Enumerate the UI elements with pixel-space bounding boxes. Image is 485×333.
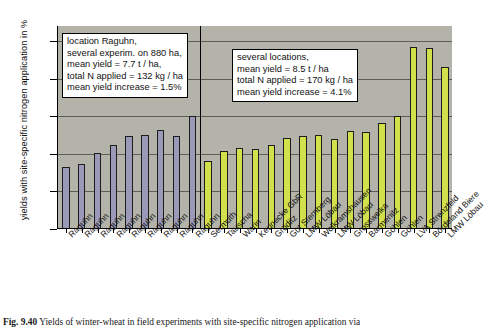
x-tick-13 xyxy=(271,229,272,233)
figure-caption: Fig. 9.40 Yields of winter-wheat in fiel… xyxy=(3,316,461,328)
note1-line-3: total N applied = 132 kg / ha xyxy=(67,71,183,83)
note1-line-0: location Raguhn, xyxy=(67,36,183,48)
x-tick-21 xyxy=(398,229,399,233)
y-tick-115 xyxy=(50,41,57,42)
x-tick-14 xyxy=(287,229,288,233)
x-tick-18 xyxy=(350,229,351,233)
note2-line-1: mean yield = 8.5 t / ha xyxy=(237,64,353,76)
bar-19 xyxy=(362,132,369,229)
bar-2 xyxy=(94,153,101,229)
x-tick-3 xyxy=(113,229,114,233)
x-tick-5 xyxy=(145,229,146,233)
bar-8 xyxy=(189,116,196,229)
bar-7 xyxy=(173,136,180,229)
y-tick-110 xyxy=(50,79,57,80)
note2-line-3: mean yield increase = 4.1% xyxy=(237,87,353,99)
x-tick-19 xyxy=(366,229,367,233)
x-tick-22 xyxy=(414,229,415,233)
x-tick-9 xyxy=(208,229,209,233)
x-tick-2 xyxy=(98,229,99,233)
x-tick-6 xyxy=(161,229,162,233)
x-tick-20 xyxy=(382,229,383,233)
bar-22 xyxy=(410,47,417,229)
note2-line-2: total N applied = 170 kg / ha xyxy=(237,75,353,87)
bar-15 xyxy=(299,136,306,229)
bar-24 xyxy=(441,67,448,229)
note1-line-4: mean yield increase = 1.5% xyxy=(67,82,183,94)
x-tick-11 xyxy=(240,229,241,233)
note1-line-1: several experim. on 880 ha, xyxy=(67,48,183,60)
bar-11 xyxy=(236,148,243,229)
bar-13 xyxy=(268,145,275,229)
bar-5 xyxy=(141,135,148,229)
bar-16 xyxy=(315,135,322,229)
x-tick-23 xyxy=(429,229,430,233)
annotation-box-locations: several locations,mean yield = 8.5 t / h… xyxy=(232,49,358,102)
bar-0 xyxy=(62,167,69,229)
gridline-105 xyxy=(58,116,452,117)
bar-3 xyxy=(110,145,117,229)
x-tick-0 xyxy=(66,229,67,233)
bar-12 xyxy=(252,149,259,229)
bar-14 xyxy=(283,138,290,229)
x-tick-7 xyxy=(177,229,178,233)
y-tick-100 xyxy=(50,154,57,155)
caption-number: Fig. 9.40 xyxy=(3,317,37,327)
y-tick-95 xyxy=(50,191,57,192)
x-tick-12 xyxy=(256,229,257,233)
bar-23 xyxy=(426,48,433,229)
bar-17 xyxy=(331,139,338,229)
bar-18 xyxy=(347,131,354,229)
x-tick-4 xyxy=(129,229,130,233)
y-tick-105 xyxy=(50,116,57,117)
bar-6 xyxy=(157,130,164,229)
bar-21 xyxy=(394,116,401,229)
x-tick-1 xyxy=(82,229,83,233)
x-label-24: LMW Löbau xyxy=(446,200,485,239)
group-separator-line xyxy=(200,26,201,229)
y-axis-title: yields with site-specific nitrogen appli… xyxy=(19,5,35,235)
x-tick-24 xyxy=(445,229,446,233)
bar-4 xyxy=(125,136,132,229)
annotation-box-raguhn: location Raguhn,several experim. on 880 … xyxy=(62,33,188,98)
note1-line-2: mean yield = 7.7 t / ha, xyxy=(67,59,183,71)
bar-9 xyxy=(204,161,211,229)
x-tick-16 xyxy=(319,229,320,233)
bar-1 xyxy=(78,164,85,229)
x-tick-15 xyxy=(303,229,304,233)
x-tick-17 xyxy=(335,229,336,233)
x-tick-10 xyxy=(224,229,225,233)
caption-body: Yields of winter-wheat in field experime… xyxy=(39,317,360,327)
bar-10 xyxy=(220,151,227,229)
bar-20 xyxy=(378,123,385,229)
y-tick-90 xyxy=(50,229,57,230)
x-tick-8 xyxy=(192,229,193,233)
note2-line-0: several locations, xyxy=(237,52,353,64)
